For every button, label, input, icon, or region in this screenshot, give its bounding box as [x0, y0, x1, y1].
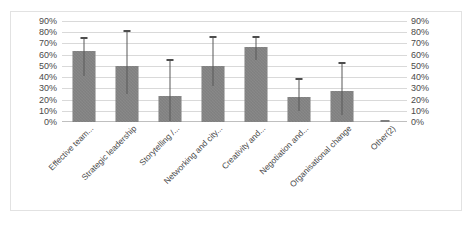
- y-tick-right-4: 50%: [411, 61, 445, 70]
- error-bar: [83, 38, 84, 76]
- error-bar: [169, 60, 170, 121]
- y-tick-left-8: 10%: [23, 106, 57, 115]
- y-axis-left: 90%80%70%60%50%40%30%20%10%0%: [23, 21, 57, 122]
- y-tick-right-8: 10%: [411, 106, 445, 115]
- error-bar: [299, 79, 300, 110]
- bar-group: [148, 21, 191, 122]
- y-tick-left-3: 60%: [23, 50, 57, 59]
- error-bar: [212, 37, 213, 86]
- error-bar-cap: [339, 62, 346, 64]
- y-tick-right-9: 0%: [411, 118, 445, 127]
- x-axis-label-2: Storytelling /...: [138, 124, 182, 168]
- error-bar-cap: [253, 36, 260, 38]
- y-tick-left-1: 80%: [23, 28, 57, 37]
- error-bar-cap: [296, 78, 303, 80]
- y-tick-left-5: 40%: [23, 73, 57, 82]
- y-tick-right-7: 20%: [411, 95, 445, 104]
- bar-group: [235, 21, 278, 122]
- plot-area: [62, 21, 407, 122]
- y-tick-right-3: 60%: [411, 50, 445, 59]
- y-tick-right-1: 80%: [411, 28, 445, 37]
- y-tick-left-0: 90%: [23, 17, 57, 26]
- x-axis-label-4: Creativity and...: [220, 124, 267, 171]
- bar-group: [62, 21, 105, 122]
- bar-group: [191, 21, 234, 122]
- error-bar-cap: [80, 37, 87, 39]
- bar-group: [105, 21, 148, 122]
- bar-group: [364, 21, 407, 122]
- bar-group: [278, 21, 321, 122]
- chart-frame: 90%80%70%60%50%40%30%20%10%0% 90%80%70%6…: [10, 11, 462, 211]
- error-bar-cap: [209, 36, 216, 38]
- error-bar-cap: [123, 30, 130, 32]
- x-axis-label-7: Other(2): [369, 124, 397, 152]
- y-tick-left-4: 50%: [23, 61, 57, 70]
- y-tick-right-2: 70%: [411, 39, 445, 48]
- error-bar-cap: [166, 59, 173, 61]
- y-tick-left-7: 20%: [23, 95, 57, 104]
- y-tick-right-5: 40%: [411, 73, 445, 82]
- y-tick-left-9: 0%: [23, 118, 57, 127]
- bar: [381, 120, 390, 122]
- y-tick-left-2: 70%: [23, 39, 57, 48]
- y-tick-right-6: 30%: [411, 84, 445, 93]
- x-axis-category-labels: Effective team...Strategic leadershipSto…: [62, 124, 407, 216]
- error-bar: [342, 63, 343, 116]
- y-tick-left-6: 30%: [23, 84, 57, 93]
- y-axis-right: 90%80%70%60%50%40%30%20%10%0%: [411, 21, 445, 122]
- error-bar: [126, 31, 127, 94]
- bar-group: [321, 21, 364, 122]
- y-tick-right-0: 90%: [411, 17, 445, 26]
- error-bar: [256, 37, 257, 61]
